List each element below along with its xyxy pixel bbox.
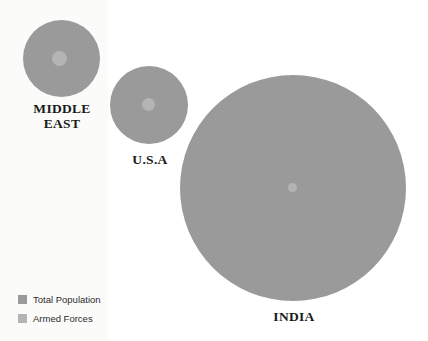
legend-label-armed-forces: Armed Forces [33,313,93,324]
legend-item-armed-forces[interactable]: Armed Forces [18,311,101,326]
legend-item-total-population[interactable]: Total Population [18,292,101,307]
bubble-inner-armed-forces [288,183,297,192]
legend-swatch-armed-forces [18,314,27,323]
chart-legend: Total Population Armed Forces [18,292,101,330]
bubble-chart: MIDDLE EAST U.S.A INDIA Total Population… [0,0,428,341]
bubble-label-middle-east: MIDDLE EAST [10,101,114,131]
legend-swatch-total-population [18,295,27,304]
bubble-inner-armed-forces [142,98,155,111]
bubble-label-india: INDIA [230,309,358,324]
legend-label-total-population: Total Population [33,294,101,305]
bubble-inner-armed-forces [52,51,67,66]
